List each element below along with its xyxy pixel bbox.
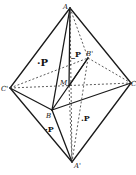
face-label-P-left: ·P xyxy=(37,57,48,68)
edge-C-B xyxy=(52,83,131,110)
edge-A-C' xyxy=(10,8,70,88)
face-label-P-lower-right: .P xyxy=(81,113,90,123)
label-M: M xyxy=(59,79,68,87)
edge-B-A' xyxy=(52,110,72,162)
face-label-P-lower-left: ·P xyxy=(45,124,54,134)
edge-B'-A' xyxy=(72,58,88,162)
label-A: A xyxy=(62,3,68,11)
edge-B'-C xyxy=(88,58,131,83)
face-labels: ·P _P ·P .P xyxy=(37,49,90,134)
edge-C'-A' xyxy=(10,88,72,162)
label-C: C xyxy=(131,80,136,88)
visible-edges xyxy=(10,8,131,162)
edge-M-B' xyxy=(69,58,88,86)
edge-A-B xyxy=(52,8,70,110)
octahedron-diagram: A C' C B' M B A' ·P _P ·P .P xyxy=(0,0,136,175)
label-B: B xyxy=(45,112,51,120)
face-label-P-back: _P xyxy=(71,49,81,59)
edge-C'-B xyxy=(10,88,52,110)
hidden-edges xyxy=(10,8,131,162)
edge-A-M xyxy=(69,8,70,86)
label-B-prime: B' xyxy=(85,50,93,58)
label-C-prime: C' xyxy=(1,85,8,93)
label-A-prime: A' xyxy=(73,162,81,170)
